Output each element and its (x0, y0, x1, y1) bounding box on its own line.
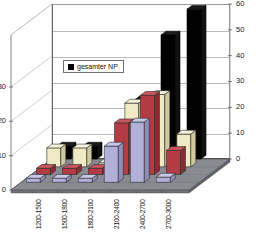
gridline-50 (53, 31, 229, 32)
right-axis-tick-20: 20 (236, 103, 258, 111)
left-axis-tick-20: 20 (0, 117, 6, 125)
x-axis-label-3: 1800-2100 (87, 199, 94, 229)
right-axis-tick-60: 60 (236, 0, 258, 8)
right-axis-tick-10: 10 (236, 129, 258, 137)
x-axis-label-1: 1200-1500 (35, 199, 42, 229)
x-axis-label-6: 2700-3000 (165, 199, 172, 229)
gridline-30 (53, 83, 229, 84)
chart-container: 30 20 10 0 60 50 40 30 20 10 0 1200-1500… (0, 0, 263, 233)
plot-back-wall (52, 4, 230, 159)
left-axis-tick-10: 10 (0, 152, 6, 160)
gridline-20 (53, 108, 229, 109)
right-axis-tick-0: 0 (236, 155, 258, 163)
right-axis-tick-50: 50 (236, 26, 258, 34)
x-axis-label-2: 1500-1800 (61, 199, 68, 229)
gridline-40 (53, 57, 229, 58)
x-axis-label-4: 2100-2400 (113, 199, 120, 229)
x-axis-label-5: 2400-2700 (139, 199, 146, 229)
legend-label-gesamter-np: gesamter NP (77, 63, 118, 70)
right-axis-tick-30: 30 (236, 77, 258, 85)
gridline-10 (53, 134, 229, 135)
left-axis-tick-30: 30 (0, 83, 6, 91)
right-axis-tick-40: 40 (236, 52, 258, 60)
chart-legend: gesamter NP (63, 60, 124, 73)
legend-swatch-gesamter-np (68, 64, 74, 70)
wall-base-line (53, 158, 229, 159)
left-axis-tick-0: 0 (0, 186, 6, 194)
